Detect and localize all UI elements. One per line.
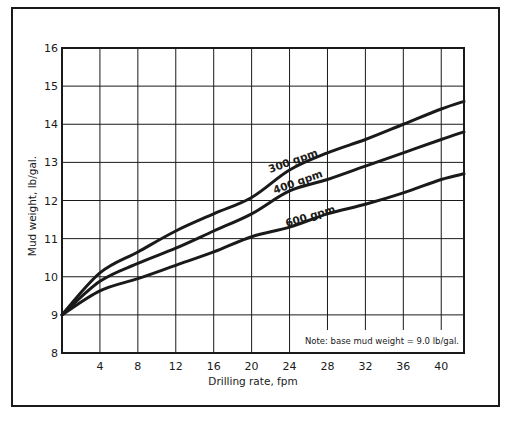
y-tick-label: 10 bbox=[44, 271, 58, 284]
x-tick-label: 16 bbox=[207, 360, 221, 373]
x-tick-label: 40 bbox=[434, 360, 448, 373]
y-tick-label: 16 bbox=[44, 42, 58, 55]
curve-label: 600 gpm bbox=[284, 202, 337, 229]
mud-weight-chart: 300 gpm400 gpm600 gpm Note: base mud wei… bbox=[0, 0, 509, 423]
y-tick-label: 12 bbox=[44, 195, 58, 208]
y-tick-label: 8 bbox=[51, 347, 58, 360]
y-tick-label: 15 bbox=[44, 80, 58, 93]
x-tick-label: 20 bbox=[245, 360, 259, 373]
x-tick-label: 12 bbox=[169, 360, 183, 373]
x-axis-label: Drilling rate, fpm bbox=[208, 375, 297, 387]
x-tick-label: 8 bbox=[134, 360, 141, 373]
y-tick-label: 14 bbox=[44, 118, 58, 131]
x-tick-label: 24 bbox=[283, 360, 297, 373]
grid-lines bbox=[62, 48, 464, 353]
y-axis-ticks: 8910111213141516 bbox=[44, 42, 58, 360]
x-tick-label: 4 bbox=[96, 360, 103, 373]
x-tick-label: 32 bbox=[358, 360, 372, 373]
x-tick-label: 28 bbox=[320, 360, 334, 373]
y-tick-label: 11 bbox=[44, 233, 58, 246]
y-tick-label: 9 bbox=[51, 309, 58, 322]
note-annotation: Note: base mud weight = 9.0 lb/gal. bbox=[305, 330, 463, 352]
x-axis-ticks: 481216202428323640 bbox=[96, 360, 448, 373]
y-axis-label: Mud weight, lb/gal. bbox=[26, 156, 38, 256]
y-tick-label: 13 bbox=[44, 156, 58, 169]
x-tick-label: 36 bbox=[396, 360, 410, 373]
note-text: Note: base mud weight = 9.0 lb/gal. bbox=[305, 336, 459, 346]
